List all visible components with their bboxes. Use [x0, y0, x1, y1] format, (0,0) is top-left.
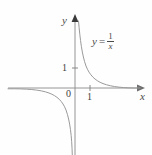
origin-label: 0: [66, 89, 71, 99]
y-axis-tick-label-1: 1: [62, 63, 67, 73]
plot-canvas: [0, 0, 152, 155]
x-axis-tick-label-1: 1: [87, 92, 92, 102]
equation-fraction: 1 x: [107, 32, 114, 51]
y-axis-label: y: [62, 15, 67, 26]
curve-branch-negative: [8, 89, 72, 155]
hyperbola-figure: y x 0 1 1 y = 1 x: [0, 0, 152, 155]
equation-equals-sign: =: [99, 36, 105, 47]
equation-numerator: 1: [107, 32, 114, 41]
equation-lhs: y: [92, 36, 97, 47]
curve-equation-annotation: y = 1 x: [92, 32, 114, 51]
y-axis-arrowhead: [72, 14, 79, 22]
x-axis-label: x: [140, 91, 145, 102]
equation-denominator: x: [108, 42, 114, 51]
